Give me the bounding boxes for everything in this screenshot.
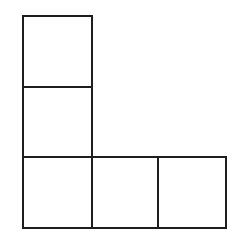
grid-cell-bottom-left xyxy=(22,156,93,229)
grid-cell-bottom-center xyxy=(91,156,159,229)
grid-cell-top xyxy=(22,15,93,88)
grid-cell-bottom-right xyxy=(157,156,227,229)
grid-cell-middle xyxy=(22,86,93,158)
